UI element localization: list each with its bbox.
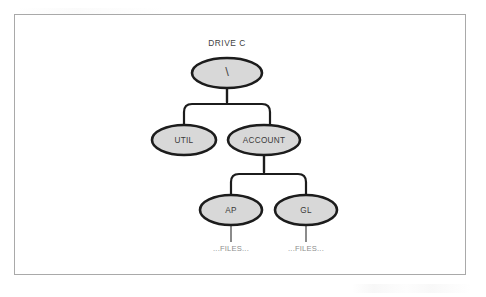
edge-account-to-children [231,155,306,195]
diagram-title: DRIVE C [208,38,245,48]
directory-tree-diagram: DRIVE C \ UTIL ACCOUNT AP GL ...FILES...… [0,0,486,297]
scan-artifact-bottom [352,284,472,293]
node-ap[interactable]: AP [200,195,262,225]
node-gl[interactable]: GL [275,195,337,225]
leaf-ap-files-label: ...FILES... [213,244,249,253]
node-util[interactable]: UTIL [152,125,216,155]
node-gl-label: GL [300,206,312,215]
node-ap-label: AP [225,206,237,215]
leaf-gl-files-label: ...FILES... [288,244,324,253]
node-account-label: ACCOUNT [243,136,286,145]
node-root-label: \ [225,64,229,79]
node-account[interactable]: ACCOUNT [228,125,300,155]
scanned-page: DRIVE C \ UTIL ACCOUNT AP GL ...FILES...… [0,0,486,297]
node-util-label: UTIL [175,136,194,145]
node-root[interactable]: \ [192,58,262,88]
